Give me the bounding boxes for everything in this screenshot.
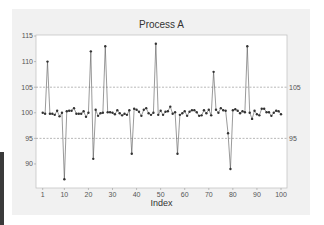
data-point <box>280 113 282 115</box>
data-point <box>145 107 147 109</box>
data-point <box>186 115 188 117</box>
x-tick-label: 60 <box>181 191 189 198</box>
data-point <box>193 109 195 111</box>
data-point <box>102 112 104 114</box>
data-point <box>152 112 154 114</box>
y-tick-label: 100 <box>21 109 33 116</box>
data-point <box>244 111 246 113</box>
data-point <box>229 168 231 170</box>
x-tick-label: 80 <box>229 191 237 198</box>
data-point <box>176 153 178 155</box>
data-point <box>265 111 267 113</box>
data-point <box>171 113 173 115</box>
data-point <box>249 112 251 114</box>
data-point <box>236 110 238 112</box>
y-tick-label: 95 <box>25 135 33 142</box>
data-point <box>162 114 164 116</box>
data-point <box>131 153 133 155</box>
reference-line-label: 95 <box>289 135 297 142</box>
data-point <box>58 115 60 117</box>
x-tick-label: 100 <box>275 191 287 198</box>
data-point <box>147 112 149 114</box>
data-point <box>275 110 277 112</box>
data-point <box>256 113 258 115</box>
data-point <box>92 158 94 160</box>
data-point <box>191 109 193 111</box>
data-point <box>220 107 222 109</box>
x-axis: 1102030405060708090100 <box>41 188 287 198</box>
data-point <box>215 109 217 111</box>
data-point <box>119 112 121 114</box>
data-point <box>157 114 159 116</box>
data-point <box>251 118 253 120</box>
data-point <box>104 45 106 47</box>
data-point <box>208 109 210 111</box>
data-point <box>155 42 157 44</box>
data-point <box>70 110 72 112</box>
data-point <box>140 115 142 117</box>
data-point <box>203 109 205 111</box>
x-tick-label: 20 <box>85 191 93 198</box>
data-point <box>277 110 279 112</box>
data-point <box>174 111 176 113</box>
data-point <box>200 114 202 116</box>
data-point <box>188 111 190 113</box>
x-tick-label: 50 <box>157 191 165 198</box>
data-point <box>273 112 275 114</box>
x-tick-label: 90 <box>253 191 261 198</box>
data-point <box>61 112 63 114</box>
data-point <box>51 113 53 115</box>
data-point <box>227 132 229 134</box>
y-tick-label: 110 <box>22 58 33 65</box>
x-tick-label: 10 <box>60 191 68 198</box>
data-point <box>241 110 243 112</box>
data-point <box>210 114 212 116</box>
data-point <box>205 112 207 114</box>
data-point <box>90 50 92 52</box>
data-point <box>106 111 108 113</box>
data-point <box>234 108 236 110</box>
data-point <box>54 114 56 116</box>
y-tick-label: 115 <box>22 32 33 39</box>
x-tick-label: 30 <box>109 191 117 198</box>
data-point <box>87 112 89 114</box>
data-point <box>133 107 135 109</box>
data-point <box>164 111 166 113</box>
data-point <box>121 114 123 116</box>
data-point <box>126 114 128 116</box>
data-point <box>270 115 272 117</box>
data-point <box>246 45 248 47</box>
data-point <box>150 114 152 116</box>
reference-line-label: 105 <box>289 84 301 91</box>
x-tick-label: 70 <box>205 191 213 198</box>
y-tick-label: 105 <box>21 84 33 91</box>
data-point <box>128 109 130 111</box>
data-point <box>268 111 270 113</box>
data-point <box>97 115 99 117</box>
data-point <box>99 112 101 114</box>
data-point <box>94 109 96 111</box>
data-point <box>212 71 214 73</box>
data-point <box>116 109 118 111</box>
x-axis-title: Index <box>150 198 173 208</box>
data-point <box>239 112 241 114</box>
data-point <box>253 110 255 112</box>
chart-title: Process A <box>139 19 184 30</box>
data-point <box>159 110 161 112</box>
data-point <box>123 113 125 115</box>
data-point <box>224 110 226 112</box>
data-point <box>73 107 75 109</box>
chart: Process A Index 10595 9095100105110115 1… <box>0 0 324 225</box>
data-point <box>82 110 84 112</box>
data-point <box>85 116 87 118</box>
data-point <box>49 113 51 115</box>
data-point <box>184 110 186 112</box>
data-point <box>109 111 111 113</box>
data-point <box>261 107 263 109</box>
data-point <box>44 113 46 115</box>
data-point <box>179 114 181 116</box>
data-point <box>63 178 65 180</box>
data-point <box>196 111 198 113</box>
data-point <box>232 109 234 111</box>
data-point <box>75 113 77 115</box>
